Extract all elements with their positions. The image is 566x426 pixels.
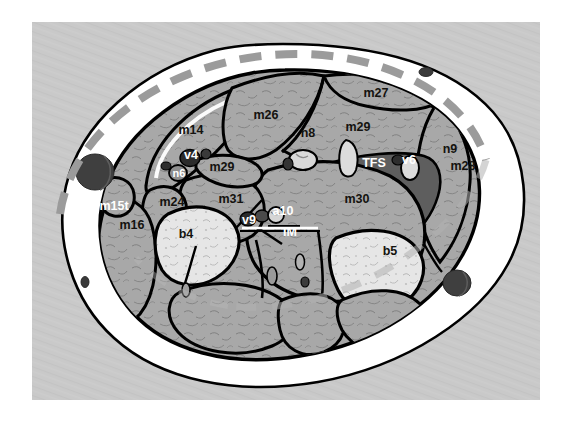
label-m15t: m15t bbox=[99, 199, 129, 213]
label-m27: m27 bbox=[363, 86, 388, 100]
label-TFS: TFS bbox=[362, 156, 386, 170]
label-m29-lower: m29 bbox=[209, 160, 234, 174]
label-b5: b5 bbox=[383, 244, 398, 258]
label-m29-upper: m29 bbox=[345, 120, 370, 134]
label-n9: n9 bbox=[443, 142, 458, 156]
anatomical-figure: m14 m26 m27 n8 m29 n9 m28 m29 m31 m30 m2… bbox=[0, 0, 566, 426]
label-IM: IM bbox=[283, 225, 297, 239]
vessel-bottom-left-small bbox=[81, 277, 89, 288]
cross-section-illustration: m14 m26 m27 n8 m29 n9 m28 m29 m31 m30 m2… bbox=[0, 0, 566, 426]
label-n6: n6 bbox=[173, 167, 186, 179]
label-v4: v4 bbox=[184, 148, 198, 162]
label-m30: m30 bbox=[344, 192, 369, 206]
label-m14: m14 bbox=[178, 123, 203, 137]
label-m26: m26 bbox=[253, 108, 278, 122]
label-m28: m28 bbox=[450, 159, 475, 173]
label-m31: m31 bbox=[218, 192, 243, 206]
label-n8: n8 bbox=[301, 126, 316, 140]
vessel-left-large bbox=[76, 154, 114, 190]
label-a10: a10 bbox=[273, 204, 294, 218]
label-b4: b4 bbox=[179, 227, 194, 241]
label-v6: v6 bbox=[402, 153, 416, 167]
label-v9: v9 bbox=[242, 213, 256, 227]
vessel-top-right-small bbox=[419, 68, 433, 77]
label-m24: m24 bbox=[159, 195, 184, 209]
label-m16: m16 bbox=[119, 218, 144, 232]
